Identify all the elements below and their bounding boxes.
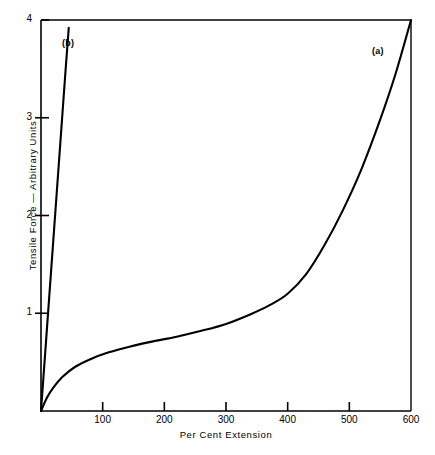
y-axis-label: Tensile Force — Arbitrary Units [27,101,38,291]
curve-label-b: (b) [62,38,74,48]
curve-b-path [41,28,69,411]
y-tick-label-1: 1 [14,306,32,317]
x-axis-label: Per Cent Extension [41,429,411,440]
data-curves [41,20,411,411]
x-axis-ticks [103,402,350,411]
x-tick-label-600: 600 [391,414,431,425]
y-tick-label-4: 4 [14,13,32,24]
curve-label-a: (a) [372,46,384,56]
plot-frame [41,20,411,411]
curve-a-path [41,20,411,411]
x-tick-label-400: 400 [268,414,308,425]
x-tick-label-300: 300 [206,414,246,425]
chart-svg [0,0,435,455]
figure-tensile-force-chart: 4 3 2 1 100 200 300 400 500 600 Tensile … [0,0,435,455]
x-tick-label-100: 100 [83,414,123,425]
x-tick-label-200: 200 [144,414,184,425]
x-tick-label-500: 500 [329,414,369,425]
